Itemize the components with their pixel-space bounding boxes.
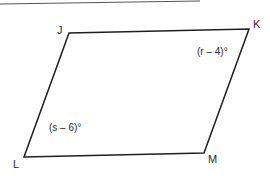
vertex-label-j: J [57, 24, 63, 36]
vertex-label-k: K [253, 18, 260, 30]
parallelogram-diagram: J K L M (r – 4)° (s – 6)° [0, 0, 270, 176]
angle-label-l: (s – 6)° [49, 122, 81, 134]
angle-label-k: (r – 4)° [197, 46, 228, 58]
vertex-label-l: L [13, 158, 19, 170]
top-rule-line [0, 1, 200, 4]
diagram-canvas [0, 0, 270, 176]
vertex-label-m: M [208, 153, 217, 165]
